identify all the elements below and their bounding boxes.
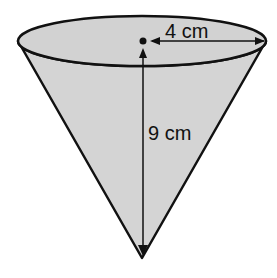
- cone-body: [18, 41, 266, 258]
- height-label: 9 cm: [148, 122, 191, 144]
- radius-label: 4 cm: [165, 20, 208, 42]
- center-point: [140, 38, 147, 45]
- cone-diagram: 4 cm 9 cm: [0, 0, 277, 278]
